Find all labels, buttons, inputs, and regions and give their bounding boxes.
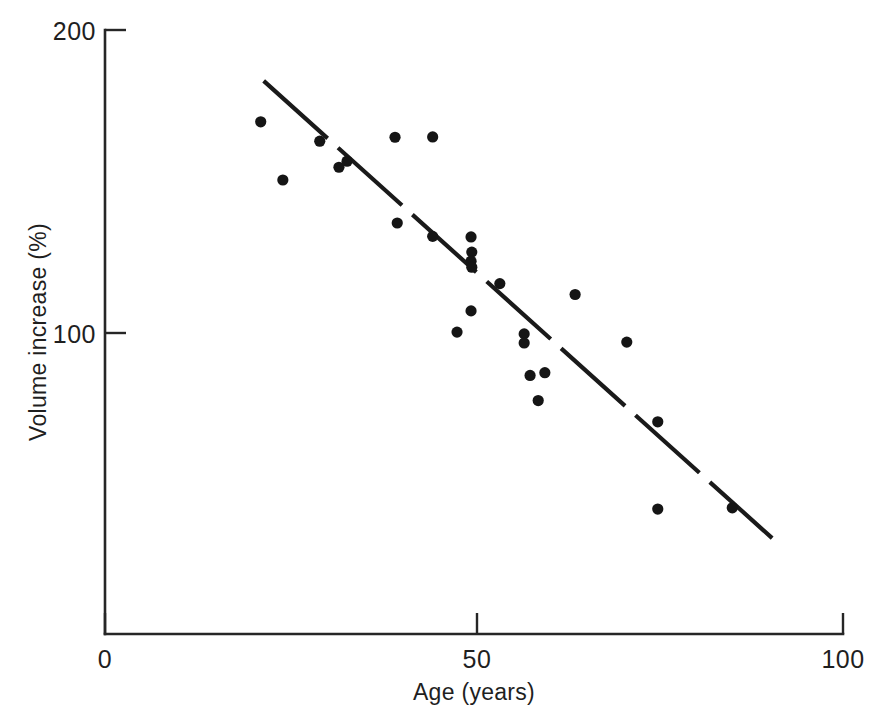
data-points-layer bbox=[255, 116, 738, 514]
tick-labels-group: 200 100 0 50 100 bbox=[53, 17, 865, 673]
chart-figure: 200 100 0 50 100 Volume increase (%) Age… bbox=[0, 0, 879, 714]
x-tick-label-100: 100 bbox=[821, 645, 864, 673]
data-point bbox=[727, 502, 738, 513]
y-tick-label-100: 100 bbox=[53, 320, 96, 348]
x-tick-label-0: 0 bbox=[98, 645, 112, 673]
x-axis-title: Age (years) bbox=[413, 679, 535, 705]
data-point bbox=[466, 262, 477, 273]
data-point bbox=[539, 367, 550, 378]
data-point bbox=[277, 174, 288, 185]
data-point bbox=[533, 395, 544, 406]
data-point bbox=[392, 217, 403, 228]
regression-trend-line bbox=[264, 81, 772, 538]
data-point bbox=[465, 231, 476, 242]
data-point bbox=[427, 231, 438, 242]
y-axis-title: Volume increase (%) bbox=[25, 223, 51, 441]
data-point bbox=[465, 305, 476, 316]
y-tick-label-200: 200 bbox=[53, 17, 96, 45]
data-point bbox=[652, 416, 663, 427]
data-point bbox=[389, 132, 400, 143]
x-tick-label-50: 50 bbox=[463, 645, 492, 673]
data-point bbox=[570, 289, 581, 300]
data-point bbox=[494, 278, 505, 289]
data-point bbox=[427, 131, 438, 142]
trend-line-group bbox=[264, 81, 772, 538]
data-point bbox=[451, 326, 462, 337]
data-point bbox=[519, 337, 530, 348]
data-point bbox=[652, 503, 663, 514]
scatter-plot-canvas: 200 100 0 50 100 Volume increase (%) Age… bbox=[0, 0, 879, 714]
data-point bbox=[314, 136, 325, 147]
data-point bbox=[621, 336, 632, 347]
data-point bbox=[255, 116, 266, 127]
data-point bbox=[341, 156, 352, 167]
axes-group bbox=[105, 30, 843, 634]
data-point bbox=[524, 370, 535, 381]
